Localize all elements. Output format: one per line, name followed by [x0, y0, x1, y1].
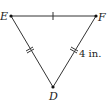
label-f: F — [97, 11, 106, 24]
triangle-diagram: E F D 4 in. — [0, 0, 109, 108]
label-d: D — [48, 90, 58, 103]
tick-marks — [26, 12, 78, 53]
point-d — [51, 85, 54, 88]
side-length-label: 4 in. — [79, 48, 101, 59]
side-ed — [11, 16, 53, 87]
label-e: E — [0, 10, 8, 23]
point-e — [9, 14, 12, 17]
